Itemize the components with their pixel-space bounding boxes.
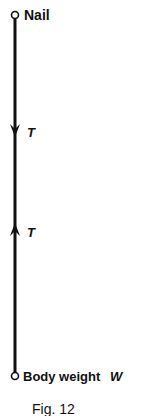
nail-label: Nail <box>24 8 50 22</box>
tension-label-bottom: T <box>27 226 35 239</box>
nail-point-icon <box>12 12 19 19</box>
tension-label-top: T <box>27 126 35 139</box>
string-diagram <box>0 0 157 416</box>
body-weight-text: Body weight <box>23 369 100 384</box>
weight-symbol: W <box>110 369 122 384</box>
weight-point-icon <box>12 373 19 380</box>
body-weight-label: Body weight W <box>23 370 122 383</box>
figure-caption: Fig. 12 <box>32 402 75 416</box>
